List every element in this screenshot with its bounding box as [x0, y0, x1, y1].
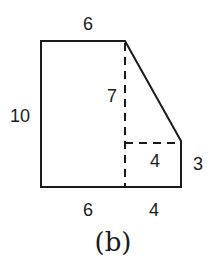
- label-bottom-right: 4: [149, 200, 159, 220]
- label-inner-horizontal: 4: [150, 151, 160, 171]
- label-right: 3: [193, 154, 203, 174]
- figure-caption: (b): [95, 227, 132, 257]
- composite-shape-diagram: 6 10 7 4 3 6 4 (b): [0, 0, 208, 267]
- label-left: 10: [10, 106, 30, 126]
- label-bottom-left: 6: [83, 200, 93, 220]
- label-top: 6: [83, 14, 93, 34]
- label-inner-vertical: 7: [107, 86, 117, 106]
